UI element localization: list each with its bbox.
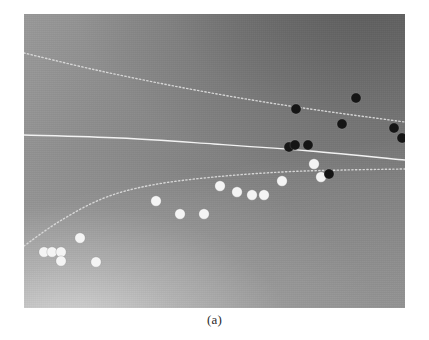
data-point-class-black bbox=[290, 140, 300, 150]
data-point-class-white bbox=[75, 233, 85, 243]
curves-group bbox=[24, 53, 405, 246]
data-point-class-white bbox=[309, 159, 319, 169]
data-point-class-black bbox=[389, 123, 399, 133]
figure-caption: (a) bbox=[0, 312, 429, 328]
figure-root: (a) bbox=[0, 0, 429, 340]
curve-upper-margin-curve bbox=[24, 53, 405, 122]
curve-decision-boundary bbox=[24, 135, 405, 160]
data-point-class-black bbox=[324, 169, 334, 179]
data-point-class-black bbox=[337, 119, 347, 129]
data-point-class-black bbox=[291, 104, 301, 114]
data-point-class-white bbox=[215, 181, 225, 191]
data-point-class-white bbox=[56, 256, 66, 266]
data-point-class-black bbox=[351, 93, 361, 103]
markers-group bbox=[39, 93, 405, 267]
data-point-class-white bbox=[151, 196, 161, 206]
data-point-class-white bbox=[199, 209, 209, 219]
data-point-class-white bbox=[259, 190, 269, 200]
data-point-class-white bbox=[247, 190, 257, 200]
plot-vector-layer bbox=[24, 14, 405, 308]
data-point-class-white bbox=[91, 257, 101, 267]
data-point-class-black bbox=[397, 133, 405, 143]
data-point-class-white bbox=[277, 176, 287, 186]
data-point-class-white bbox=[232, 187, 242, 197]
data-point-class-white bbox=[175, 209, 185, 219]
data-point-class-black bbox=[303, 140, 313, 150]
plot-image-panel bbox=[24, 14, 405, 308]
